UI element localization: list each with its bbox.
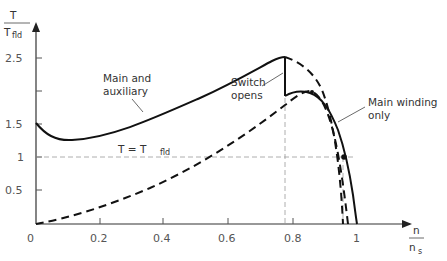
svg-text:s: s [418,247,422,256]
svg-text:n: n [409,241,416,253]
intersection-marker [310,90,314,94]
operating-point-marker [341,154,347,160]
label-t-equals-tfld-sub: fld [160,148,170,157]
svg-text:T: T [3,26,11,38]
y-axis-label: T T fld [3,9,30,40]
label-main-winding-only-line2: only [368,109,390,121]
label-switch-opens-line2: opens [231,89,263,101]
x-axis-label: n n s [409,224,424,256]
leader-main-and-auxiliary [132,99,143,112]
x-tick-0.2: 0.2 [90,232,108,245]
y-axis-arrow-icon [32,22,40,32]
svg-text:T: T [9,9,17,21]
x-tick-0.4: 0.4 [153,232,171,245]
label-main-winding-only: Main winding [368,96,437,108]
label-main-and-auxiliary: Main and [103,72,151,84]
svg-text:fld: fld [12,31,22,40]
series-main-winding-dashed [36,91,348,224]
y-tick-0.5: 0.5 [5,184,23,197]
origin-label: 0 [27,232,34,245]
x-axis-arrow-icon [402,220,412,228]
label-t-equals-tfld: T = T [117,143,147,155]
y-tick-2.5: 2.5 [5,52,23,65]
torque-speed-chart: 0.5 1 1.5 2.5 0 0.2 0.4 0.6 0.8 1 T T fl… [0,0,447,261]
leader-main-winding-only [338,107,365,122]
svg-text:n: n [413,224,420,236]
x-tick-0.6: 0.6 [218,232,236,245]
label-main-and-auxiliary-line2: auxiliary [103,85,148,97]
x-ticks [100,218,293,224]
x-tick-0.8: 0.8 [284,232,302,245]
x-tick-1: 1 [353,232,360,245]
y-tick-1: 1 [17,151,24,164]
y-tick-1.5: 1.5 [5,118,23,131]
label-switch-opens: Switch [231,76,266,88]
